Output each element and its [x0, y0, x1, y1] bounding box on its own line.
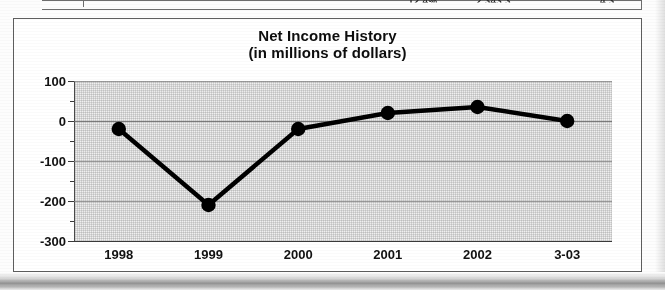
net-income-series — [74, 81, 612, 241]
data-point-1999 — [201, 198, 215, 212]
clipped-table-row: 12.4% 2,343.3 4.3 — [0, 0, 665, 14]
chart-title: Net Income History — [14, 27, 641, 44]
chart-subtitle: (in millions of dollars) — [14, 44, 641, 61]
plot-area: 1000-100-200-300 199819992000200120023-0… — [74, 81, 612, 241]
data-point-2002 — [470, 100, 484, 114]
scan-edge-bottom — [0, 272, 665, 290]
x-axis-line — [74, 241, 612, 242]
data-point-1998 — [112, 122, 126, 136]
y-axis-label: -200 — [40, 194, 66, 209]
y-axis-label: -300 — [40, 234, 66, 249]
y-axis-label: 100 — [44, 74, 66, 89]
x-axis-label: 3-03 — [554, 247, 580, 262]
y-axis-label: 0 — [59, 114, 66, 129]
table-cell-3: 4.3 — [600, 0, 615, 7]
x-axis-label: 1998 — [104, 247, 133, 262]
x-axis-label: 2001 — [373, 247, 402, 262]
table-border-vertical-right — [641, 0, 642, 9]
y-tick--300 — [68, 241, 74, 242]
x-axis-label: 2002 — [463, 247, 492, 262]
table-cell-2: 2,343.3 — [476, 0, 511, 7]
table-border-bottom — [42, 9, 642, 10]
table-border-top — [42, 0, 642, 1]
chart-container: Net Income History (in millions of dolla… — [13, 18, 642, 272]
data-point-2001 — [381, 106, 395, 120]
x-axis-label: 1999 — [194, 247, 223, 262]
data-point-3-03 — [560, 114, 574, 128]
data-point-2000 — [291, 122, 305, 136]
scanned-page: 12.4% 2,343.3 4.3 Net Income History (in… — [0, 0, 665, 290]
y-axis-label: -100 — [40, 154, 66, 169]
x-axis-label: 2000 — [284, 247, 313, 262]
table-cell-1: 12.4% — [408, 0, 437, 7]
table-border-vertical — [83, 0, 84, 7]
scan-edge-right — [655, 0, 665, 290]
